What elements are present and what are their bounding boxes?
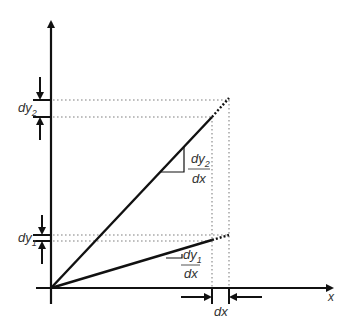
slope-triangles [160,146,184,258]
dy1-label: dy1 [18,230,37,248]
dy2-label: dy2 [18,100,37,118]
dx-label: dx [214,304,228,319]
svg-text:dy1: dy1 [183,247,202,265]
x-axis-label: x [327,290,335,304]
steep-line [51,117,212,288]
slope-lines [51,117,212,288]
slope1-fraction: dy1 dx [181,247,202,281]
dx-marker [181,289,262,304]
svg-text:dx: dx [192,171,206,186]
svg-text:dy2: dy2 [191,151,210,169]
steep-line-extension [212,98,229,117]
slope2-fraction: dy2 dx [188,151,210,186]
svg-text:dx: dx [184,266,198,281]
slope-diagram: dy2 dy1 dx x dy2 dx dy1 dx [0,0,351,329]
